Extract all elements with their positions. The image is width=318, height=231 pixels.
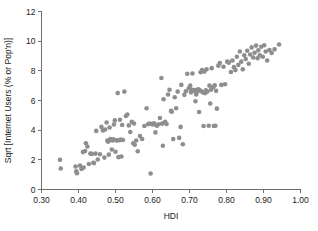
x-tick-label: 0.50 — [107, 195, 124, 205]
data-point — [256, 48, 261, 53]
data-point — [135, 149, 140, 154]
data-point — [262, 43, 267, 48]
data-point — [159, 76, 164, 81]
data-point — [58, 166, 63, 171]
data-point — [269, 51, 274, 56]
data-point — [175, 89, 180, 94]
data-point — [132, 142, 137, 147]
x-tick-label: 0.40 — [70, 195, 87, 205]
data-point — [128, 130, 133, 135]
data-point — [185, 72, 190, 77]
data-point — [73, 164, 78, 169]
data-point — [240, 67, 245, 72]
data-point — [161, 143, 166, 148]
data-point — [95, 157, 100, 162]
data-point — [148, 171, 153, 176]
data-point — [218, 61, 223, 66]
data-point — [206, 123, 211, 128]
data-point — [164, 122, 169, 127]
data-point — [125, 112, 130, 117]
data-point — [193, 99, 198, 104]
data-point — [107, 125, 112, 130]
data-points — [58, 42, 282, 176]
data-point — [118, 117, 123, 122]
data-point — [134, 138, 139, 143]
data-point — [83, 149, 88, 154]
data-point — [272, 47, 277, 52]
x-tick-label: 1.00 — [292, 195, 309, 205]
data-point — [208, 101, 213, 106]
data-point — [223, 82, 228, 87]
data-point — [251, 55, 256, 60]
data-point — [120, 123, 125, 128]
y-tick-label: 12 — [26, 7, 36, 17]
data-point — [127, 123, 132, 128]
data-point — [181, 142, 186, 147]
data-point — [119, 154, 124, 159]
data-point — [58, 158, 63, 163]
data-point — [221, 64, 226, 69]
x-axis: 0.300.400.500.600.700.800.901.00 — [33, 190, 309, 206]
x-tick-label: 0.90 — [255, 195, 272, 205]
data-point — [167, 88, 172, 93]
data-point — [229, 70, 234, 75]
data-point — [230, 58, 235, 63]
data-point — [172, 95, 177, 100]
x-axis-title: HDI — [164, 211, 179, 221]
data-point — [260, 54, 265, 59]
data-point — [144, 106, 149, 111]
data-point — [204, 67, 209, 72]
data-point — [215, 106, 220, 111]
y-tick-label: 8 — [31, 66, 36, 76]
data-point — [75, 171, 80, 176]
x-tick-label: 0.60 — [144, 195, 161, 205]
data-point — [188, 83, 193, 88]
x-tick-label: 0.30 — [33, 195, 50, 205]
data-point — [197, 110, 202, 115]
data-point — [233, 68, 238, 73]
data-point — [98, 152, 103, 157]
data-point — [140, 137, 145, 142]
data-point — [112, 118, 117, 123]
y-axis: 024681012 — [26, 7, 41, 195]
data-point — [115, 91, 120, 96]
data-point — [245, 49, 250, 54]
data-point — [174, 106, 179, 111]
y-axis-title: Sqrt [Internet Users (% or Pop'n)] — [3, 38, 13, 163]
data-point — [92, 161, 97, 166]
data-point — [212, 83, 217, 88]
data-point — [107, 152, 112, 157]
data-point — [122, 89, 127, 94]
y-tick-label: 6 — [31, 96, 36, 106]
data-point — [265, 58, 270, 63]
data-point — [178, 125, 183, 130]
x-tick-label: 0.80 — [218, 195, 235, 205]
data-point — [177, 136, 182, 141]
data-point — [132, 121, 137, 126]
data-point — [153, 130, 158, 135]
x-tick-label: 0.70 — [181, 195, 198, 205]
data-point — [102, 155, 107, 160]
data-point — [81, 165, 86, 170]
data-point — [179, 83, 184, 88]
data-point — [209, 66, 214, 71]
chart-canvas: 024681012 0.300.400.500.600.700.800.901.… — [0, 0, 318, 231]
data-point — [158, 116, 163, 121]
data-point — [112, 122, 117, 127]
data-point — [249, 45, 254, 50]
data-point — [246, 61, 251, 66]
data-point — [166, 92, 171, 97]
data-point — [169, 109, 174, 114]
data-point — [239, 59, 244, 64]
data-point — [104, 120, 109, 125]
data-point — [214, 89, 219, 94]
y-tick-label: 0 — [31, 185, 36, 195]
data-point — [161, 97, 166, 102]
data-point — [113, 149, 118, 154]
y-tick-label: 4 — [31, 125, 36, 135]
scatter-chart: 024681012 0.300.400.500.600.700.800.901.… — [0, 0, 318, 231]
data-point — [213, 123, 218, 128]
data-point — [201, 124, 206, 129]
data-point — [121, 138, 126, 143]
data-point — [103, 127, 108, 132]
